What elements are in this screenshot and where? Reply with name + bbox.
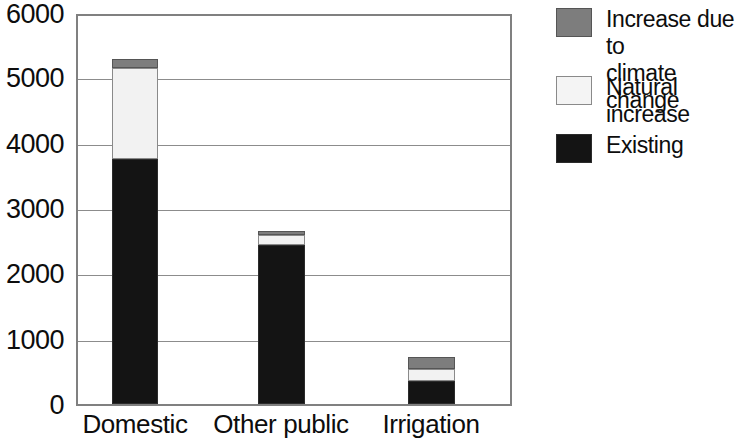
- bar-segment-existing-irrigation: [408, 381, 455, 404]
- bar-segment-climate-increase-domestic: [112, 59, 158, 68]
- x-tick-label-other-public: Other public: [206, 410, 356, 438]
- bar-irrigation: [408, 357, 455, 404]
- bar-segment-climate-increase-other-public: [258, 231, 305, 235]
- climate-increase-swatch-icon: [556, 8, 592, 37]
- y-tick-label-0: 0: [0, 392, 64, 419]
- y-tick-label-2000: 2000: [0, 261, 64, 288]
- plot-area: [76, 14, 512, 406]
- y-tick-label-6000: 6000: [0, 1, 64, 28]
- bar-segment-existing-domestic: [112, 159, 158, 404]
- bar-segment-existing-other-public: [258, 245, 305, 404]
- x-tick-label-domestic: Domestic: [60, 410, 210, 438]
- y-tick-label-5000: 5000: [0, 65, 64, 92]
- legend-label-natural-increase: Natural increase: [606, 74, 751, 128]
- y-tick-label-1000: 1000: [0, 327, 64, 354]
- bar-segment-natural-increase-irrigation: [408, 369, 455, 381]
- bar-domestic: [112, 59, 158, 404]
- x-tick-label-irrigation: Irrigation: [356, 410, 506, 438]
- legend-item-existing: Existing: [556, 132, 683, 163]
- bar-segment-natural-increase-other-public: [258, 235, 305, 246]
- bar-other-public: [258, 231, 305, 404]
- legend-label-existing: Existing: [606, 132, 683, 159]
- stacked-bar-chart-figure: 6000 5000 4000 3000 2000 1000 0: [0, 0, 753, 438]
- bar-segment-natural-increase-domestic: [112, 68, 158, 160]
- natural-increase-swatch-icon: [556, 76, 592, 105]
- bar-segment-climate-increase-irrigation: [408, 357, 455, 369]
- legend-item-natural-increase: Natural increase: [556, 74, 751, 128]
- existing-swatch-icon: [556, 134, 592, 163]
- y-tick-label-4000: 4000: [0, 131, 64, 158]
- y-tick-label-3000: 3000: [0, 196, 64, 223]
